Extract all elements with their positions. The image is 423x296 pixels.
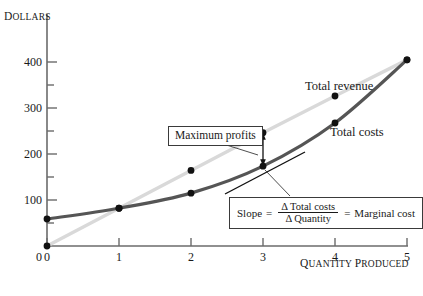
x-tick-label-4: 4 bbox=[327, 250, 343, 265]
y-tick-label-200: 200 bbox=[10, 147, 42, 162]
slope-denominator: Δ Quantity bbox=[282, 213, 334, 224]
x-tick-label-3: 3 bbox=[255, 250, 271, 265]
slope-numerator: Δ Total costs bbox=[278, 201, 338, 212]
tangent-line bbox=[225, 152, 305, 194]
annotation-maximum-profits: Maximum profits bbox=[168, 126, 263, 146]
x-tick-label-1: 1 bbox=[111, 250, 127, 265]
x-axis-title: QUANTITY PRODUCED bbox=[300, 257, 409, 269]
y-tick-label-400: 400 bbox=[10, 55, 42, 70]
annotation-slope-formula: Slope = Δ Total costs Δ Quantity = Margi… bbox=[229, 197, 423, 229]
slope-equals-1: = bbox=[266, 207, 272, 219]
slope-equals-2: = bbox=[344, 207, 350, 219]
slope-result: Marginal cost bbox=[354, 207, 415, 219]
x-tick-label-0: 0 bbox=[39, 250, 55, 265]
x-axis-ticks bbox=[47, 238, 407, 246]
x-tick-label-5: 5 bbox=[399, 250, 415, 265]
slope-word: Slope bbox=[237, 207, 262, 219]
y-tick-label-300: 300 bbox=[10, 101, 42, 116]
y-axis-title: DOLLARS bbox=[4, 10, 51, 22]
series-label-total-revenue: Total revenue bbox=[305, 79, 373, 94]
slope-leader-line bbox=[265, 170, 290, 196]
series-label-total-costs: Total costs bbox=[330, 125, 384, 140]
slope-fraction: Δ Total costs Δ Quantity bbox=[278, 201, 338, 224]
y-tick-label-0: 0 bbox=[10, 250, 42, 265]
x-tick-label-2: 2 bbox=[183, 250, 199, 265]
y-tick-label-100: 100 bbox=[10, 193, 42, 208]
